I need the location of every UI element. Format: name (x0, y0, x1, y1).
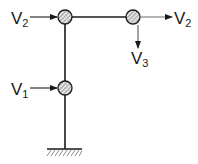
v2-right-label: V2 (174, 9, 191, 29)
fixed-support-icon (47, 149, 82, 156)
v3-label: V3 (131, 49, 148, 69)
v1-label: V1 (11, 80, 28, 100)
mid-mass-node (58, 81, 72, 95)
right-mass-node (126, 10, 140, 24)
top-joint-node (58, 10, 72, 24)
structural-frame-diagram: V2 V2 V3 V1 (0, 0, 198, 164)
v2-left-label: V2 (11, 9, 28, 29)
